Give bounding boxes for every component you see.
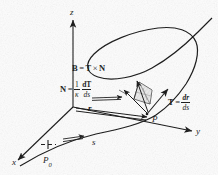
binormal-symbol: B [72,64,78,73]
normal-equation: N = 1 κ dT ds [60,81,92,98]
dr-ds-fraction: dr ds [181,94,190,111]
arc-length-label: s [92,138,96,147]
tangent-equation: T = dr ds [168,94,190,111]
tangent-symbol: T [168,98,174,107]
curvature-symbol: κ [74,89,80,98]
frenet-frame-patch [134,82,152,104]
point-P-marker [146,113,149,116]
tangent-equals: = [175,98,180,107]
x-axis-label: x [12,158,16,167]
binormal-tangent-symbol: T [85,64,91,73]
figure-linework [0,0,218,175]
z-axis-label: z [70,8,74,17]
binormal-equals: = [79,64,84,73]
ds-denominator-t: ds [181,102,190,111]
point-P0-label: P0 [43,150,52,169]
normal-equals: = [68,85,73,94]
cross-product-icon: × [93,64,98,73]
position-vector-r [76,108,147,120]
space-curve [20,18,212,166]
binormal-normal-symbol: N [99,64,105,73]
dT-ds-fraction: dT ds [81,81,92,98]
normal-symbol: N [60,85,66,94]
frenet-frame-figure: z y x B = T × N N = 1 κ dT ds T = dr ds … [0,0,218,175]
ds-denominator: ds [82,89,91,98]
binormal-equation: B = T × N [72,64,105,73]
curvature-reciprocal-fraction: 1 κ [74,81,80,98]
r-arrow-head [92,97,122,100]
y-axis-label: y [196,127,200,136]
point-P-label: P [152,115,158,124]
point-P0-subscript: 0 [49,161,52,168]
dT-numerator: dT [81,81,92,89]
position-vector-label: r [88,104,92,113]
dr-numerator: dr [181,94,190,102]
curvature-num: 1 [74,81,80,89]
